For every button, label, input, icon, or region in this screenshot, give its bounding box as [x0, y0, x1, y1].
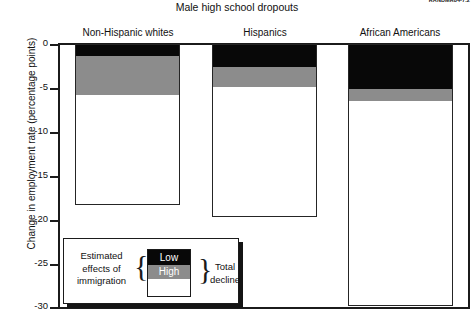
bar-african-americans[interactable] — [348, 44, 453, 306]
y-tick-minus10 — [50, 132, 59, 134]
y-tick-minus15 — [50, 176, 59, 178]
y-tick-minus25 — [50, 264, 59, 266]
legend-label-estimated-effects: Estimated effects of immigration — [70, 250, 133, 288]
legend-swatch-stack: Low High — [147, 249, 191, 297]
bar-segment-high-african-americans — [349, 89, 452, 101]
bar-segment-low-african-americans — [349, 45, 452, 89]
plot-right-border — [468, 44, 470, 309]
bar-segment-high-hispanics — [213, 67, 316, 87]
legend-swatch-high: High — [148, 265, 190, 279]
category-label-hispanics: Hispanics — [195, 27, 335, 38]
bar-segment-high-non-hispanic-whites — [76, 56, 179, 95]
category-label-non-hispanic-whites: Non-Hispanic whites — [58, 27, 198, 38]
bar-non-hispanic-whites[interactable] — [75, 44, 180, 205]
y-tick-minus5 — [50, 88, 59, 90]
y-tick-0 — [50, 44, 59, 46]
y-tick-label-minus30: -30 — [34, 300, 48, 311]
legend-swatch-low: Low — [148, 250, 190, 265]
y-tick-label-minus5: -5 — [40, 81, 48, 92]
y-tick-label-0: 0 — [43, 37, 48, 48]
y-tick-minus20 — [50, 220, 59, 222]
bar-segment-low-hispanics — [213, 45, 316, 67]
bar-hispanics[interactable] — [212, 44, 317, 217]
chart-legend: Estimated effects of immigration { Low H… — [63, 238, 239, 304]
legend-label-total-decline: Total decline — [207, 261, 243, 286]
chart-title: Male high school dropouts — [0, 1, 474, 13]
y-axis-title: Change in employment rate (percentage po… — [26, 9, 37, 279]
bar-segment-low-non-hispanic-whites — [76, 45, 179, 56]
y-tick-minus30 — [50, 307, 59, 309]
chart-figure: RANDMR84-7.2 Male high school dropouts N… — [0, 0, 474, 331]
category-label-african-americans: African Americans — [330, 27, 470, 38]
